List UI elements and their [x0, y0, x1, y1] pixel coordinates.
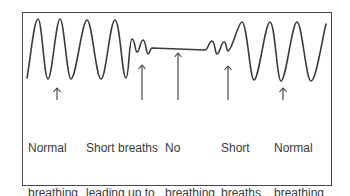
label-line: breaths — [221, 186, 261, 196]
label-no-breathing-apnea: No breathing (apnea) — [165, 111, 215, 196]
arrow-apnea — [175, 53, 182, 100]
label-short-breaths-after-apnea: Short breaths — [221, 111, 261, 196]
arrow-normal-1 — [54, 88, 61, 100]
label-line: breathing — [274, 186, 324, 196]
label-line: breathing — [165, 186, 215, 196]
arrow-short-after — [225, 66, 232, 100]
label-normal-breathing-2: Normal breathing — [274, 111, 324, 196]
label-line: No — [165, 141, 215, 156]
waveform-line — [27, 19, 326, 81]
arrow-normal-2 — [280, 88, 287, 100]
label-normal-breathing-1: Normal breathing — [28, 111, 78, 196]
label-line: Normal — [28, 141, 78, 156]
label-line: Short breaths — [86, 141, 158, 156]
label-short-breaths-before-apnea: Short breaths leading up to cessation of… — [86, 111, 158, 196]
label-line: Short — [221, 141, 261, 156]
label-line: leading up to — [86, 186, 158, 196]
label-line: Normal — [274, 141, 324, 156]
label-line: breathing — [28, 186, 78, 196]
arrow-short-before — [139, 65, 146, 100]
